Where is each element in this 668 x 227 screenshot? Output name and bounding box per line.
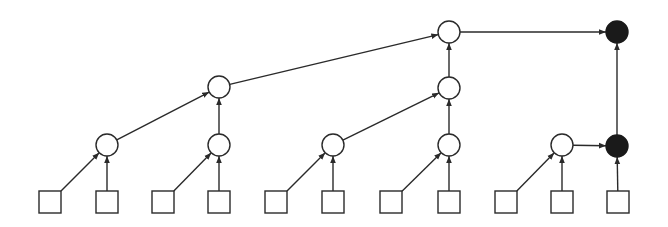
open-node-a1 (96, 134, 118, 156)
leaf-square-l9 (495, 191, 517, 213)
leaf-square-l5 (265, 191, 287, 213)
edge-a3-to-b2 (343, 93, 439, 140)
edge-l1-to-a1 (61, 153, 99, 191)
edge-l7-to-a4 (402, 153, 441, 191)
open-node-a5 (551, 134, 573, 156)
leaf-square-l6 (322, 191, 344, 213)
filled-node-f2 (606, 21, 628, 43)
edges (61, 32, 618, 191)
tree-diagram (0, 0, 668, 227)
leaf-square-l3 (152, 191, 174, 213)
open-node-a4 (438, 134, 460, 156)
leaf-square-l4 (208, 191, 230, 213)
open-node-a3 (322, 134, 344, 156)
edge-a1-to-b1 (117, 92, 209, 140)
open-node-a2 (208, 134, 230, 156)
open-node-c1 (438, 21, 460, 43)
open-node-b1 (208, 76, 230, 98)
nodes (39, 21, 629, 213)
edge-l9-to-a5 (517, 153, 554, 191)
edge-l3-to-a2 (174, 153, 211, 191)
leaf-square-l7 (380, 191, 402, 213)
leaf-square-l10 (551, 191, 573, 213)
leaf-square-l11 (607, 191, 629, 213)
leaf-square-l1 (39, 191, 61, 213)
leaf-square-l2 (96, 191, 118, 213)
edge-a5-to-f1 (573, 145, 606, 146)
edge-l5-to-a3 (287, 153, 325, 191)
edge-b1-to-c1 (230, 35, 439, 85)
edge-l11-to-f1 (617, 157, 618, 191)
open-node-b2 (438, 77, 460, 99)
leaf-square-l8 (438, 191, 460, 213)
filled-node-f1 (606, 135, 628, 157)
